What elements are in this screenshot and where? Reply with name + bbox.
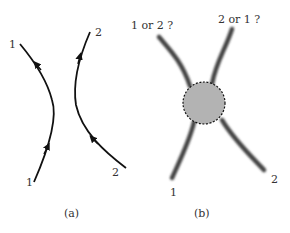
incoming-2-label: 2: [271, 173, 278, 186]
track-2-start-label: 2: [112, 166, 119, 179]
panel-a-caption: (a): [64, 207, 79, 220]
incoming-1-label: 1: [170, 186, 177, 199]
top-left-ambiguous-label: 1 or 2 ?: [131, 19, 173, 32]
panel-b: 1 or 2 ? 2 or 1 ? 1 2 (b): [131, 13, 278, 220]
track-2-path: [75, 32, 126, 168]
outgoing-track-right: [212, 29, 232, 84]
track-1-end-label: 1: [9, 38, 16, 51]
outgoing-track-left: [159, 37, 190, 86]
interaction-region: [183, 82, 225, 124]
scattering-diagram: 1 1 2 2 (a) 1 or 2 ? 2 or 1 ? 1 2 (b): [0, 0, 290, 233]
track-1-start-label: 1: [26, 176, 33, 189]
panel-a: 1 1 2 2 (a): [9, 26, 126, 220]
panel-b-caption: (b): [194, 207, 210, 220]
incoming-track-2: [222, 120, 264, 170]
track-2-end-label: 2: [95, 26, 102, 39]
incoming-track-1: [172, 122, 194, 178]
top-right-ambiguous-label: 2 or 1 ?: [218, 13, 260, 26]
